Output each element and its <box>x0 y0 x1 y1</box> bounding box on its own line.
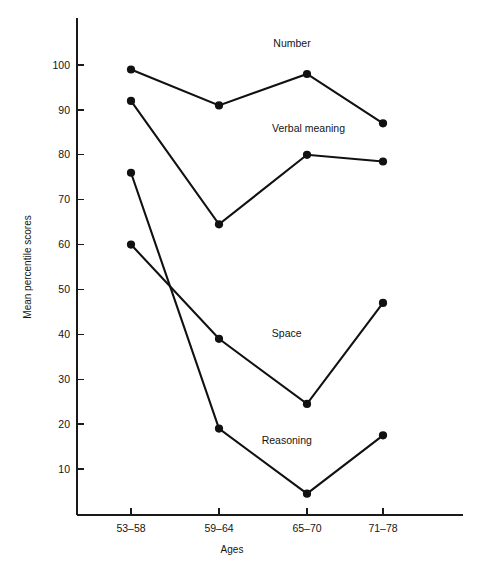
chart-background <box>0 0 480 571</box>
x-tick-label: 71–78 <box>368 522 397 534</box>
y-tick-label: 10 <box>58 463 70 475</box>
x-tick-label: 65–70 <box>292 522 321 534</box>
x-axis-title: Ages <box>221 544 244 555</box>
series-label: Reasoning <box>262 434 312 446</box>
y-tick-label: 70 <box>58 193 70 205</box>
series-label: Space <box>272 327 302 339</box>
x-tick-label: 53–58 <box>116 522 145 534</box>
data-point <box>215 335 223 343</box>
data-point <box>303 400 311 408</box>
y-tick-label: 20 <box>58 418 70 430</box>
data-point <box>127 240 135 248</box>
data-point <box>215 220 223 228</box>
series-label: Number <box>273 37 311 49</box>
data-point <box>215 425 223 433</box>
data-point <box>303 70 311 78</box>
data-point <box>127 169 135 177</box>
y-tick-label: 80 <box>58 148 70 160</box>
data-point <box>379 299 387 307</box>
y-tick-label: 90 <box>58 104 70 116</box>
y-tick-label: 100 <box>52 59 70 71</box>
data-point <box>303 151 311 159</box>
data-point <box>379 157 387 165</box>
data-point <box>303 490 311 498</box>
y-tick-label: 30 <box>58 373 70 385</box>
series-label: Verbal meaning <box>272 122 345 134</box>
y-tick-label: 40 <box>58 328 70 340</box>
y-tick-label: 50 <box>58 283 70 295</box>
data-point <box>127 65 135 73</box>
data-point <box>127 97 135 105</box>
data-point <box>379 119 387 127</box>
chart-figure: 102030405060708090100 53–5859–6465–7071–… <box>0 0 480 571</box>
line-chart: 102030405060708090100 53–5859–6465–7071–… <box>0 0 480 571</box>
y-axis-title: Mean percentile scores <box>22 215 33 318</box>
x-tick-label: 59–64 <box>204 522 233 534</box>
data-point <box>215 101 223 109</box>
data-point <box>379 431 387 439</box>
y-tick-label: 60 <box>58 238 70 250</box>
